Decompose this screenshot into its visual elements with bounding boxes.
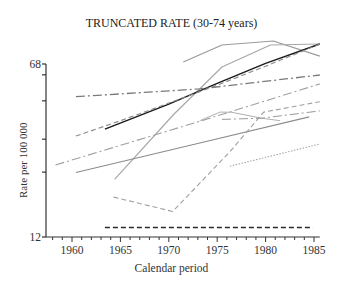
x-tick-label: 1965	[109, 244, 132, 256]
line-series-8	[200, 112, 280, 121]
y-tick-label-max: 68	[30, 58, 42, 70]
y-tick-label-min: 12	[30, 231, 42, 243]
axes: 6812196019651970197519801985	[30, 58, 326, 256]
x-tick-label: 1985	[303, 244, 326, 256]
x-tick-label: 1975	[206, 244, 229, 256]
chart: TRUNCATED RATE (30-74 years) Rate per 10…	[0, 0, 343, 289]
line-series-11	[230, 144, 320, 166]
x-tick-label: 1970	[157, 244, 180, 256]
x-tick-label: 1980	[254, 244, 277, 256]
line-series-7	[76, 117, 309, 173]
line-series-5	[76, 75, 320, 97]
plot-area: 6812196019651970197519801985	[0, 0, 343, 289]
x-tick-label: 1960	[61, 244, 84, 256]
data-lines	[56, 41, 320, 228]
